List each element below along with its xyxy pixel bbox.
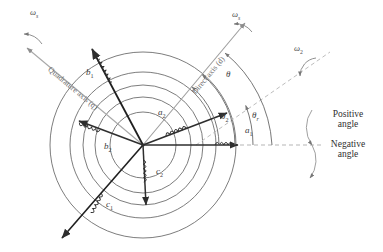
figure-canvas: ωs ωs ω2 Quadrature axis (q) Direct axis… [0, 0, 383, 252]
coil-label-c2: c2 [156, 167, 163, 178]
omega-2-label: ω2 [294, 44, 303, 55]
omega-arrows [24, 24, 316, 76]
coil-label-b2: b2 [104, 142, 112, 153]
coil-label-a1: a1 [245, 126, 253, 137]
coil-label-b1: b1 [86, 68, 94, 79]
theta-label: θ [226, 70, 230, 81]
angle-arcs [192, 53, 272, 145]
positive-angle-label: Positive angle [320, 110, 376, 130]
coil-label-a2: a2 [158, 108, 166, 119]
sign-convention-bracket [306, 110, 316, 178]
theta-r-label: θr [252, 111, 259, 122]
coil-label-c1: c1 [106, 200, 113, 211]
origin-point [141, 143, 144, 146]
negative-angle-label: Negative angle [320, 140, 376, 160]
positive-angle-line2: angle [320, 120, 376, 130]
theta-2-label: θ2 [221, 112, 228, 123]
positive-angle-arc [306, 110, 312, 145]
omega-s-quadrature-label: ωs [30, 8, 38, 19]
negative-angle-arc [310, 145, 316, 178]
omega-s-direct-label: ωs [232, 10, 240, 21]
omega-s-quadrature-arrow [24, 34, 42, 44]
negative-angle-line2: angle [320, 150, 376, 160]
omega-s-direct-arrow [234, 24, 252, 32]
coil-axis-c2 [143, 145, 146, 205]
